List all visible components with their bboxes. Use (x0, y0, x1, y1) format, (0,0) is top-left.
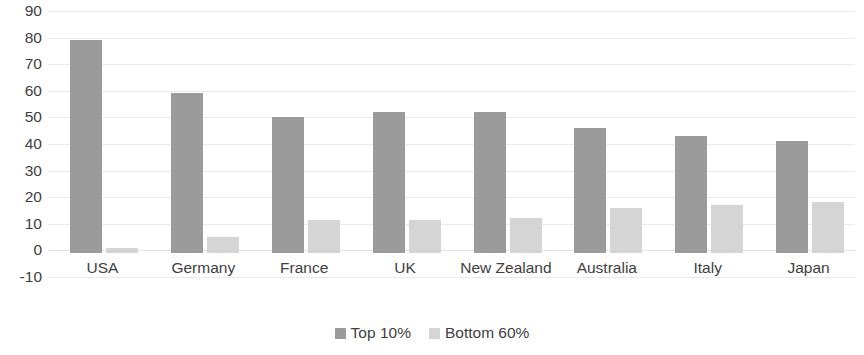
x-tick-label: USA (48, 258, 149, 277)
bar (711, 205, 743, 253)
legend-label: Top 10% (351, 325, 411, 341)
x-tick-label: Japan (754, 258, 855, 277)
bar-group (149, 11, 250, 277)
y-tick-label: 40 (2, 136, 42, 152)
bar (373, 112, 405, 253)
bar (776, 141, 808, 253)
bar (207, 237, 239, 253)
legend-entry[interactable]: Bottom 60% (429, 325, 529, 341)
x-tick-label: Italy (653, 258, 754, 277)
bar-groups (48, 11, 855, 277)
y-tick-label: 30 (2, 163, 42, 179)
x-tick-label: France (250, 258, 351, 277)
bar-group (552, 11, 653, 277)
bar (171, 93, 203, 253)
x-tick-label: New Zealand (452, 258, 553, 277)
bar-group (653, 11, 754, 277)
gridline (48, 277, 855, 278)
y-tick-label: -10 (2, 269, 42, 285)
legend-swatch-icon (429, 328, 440, 339)
bar-group (48, 11, 149, 277)
legend-swatch-icon (335, 328, 346, 339)
bar-chart: 9080706050403020100-10 USAGermanyFranceU… (0, 0, 864, 355)
x-tick-label: Australia (552, 258, 653, 277)
y-tick-label: 50 (2, 109, 42, 125)
bar (812, 202, 844, 253)
bar-group (754, 11, 855, 277)
bar (409, 220, 441, 253)
bar (675, 136, 707, 253)
bar (610, 208, 642, 253)
bar (106, 248, 138, 253)
bar-group (250, 11, 351, 277)
bar-group (351, 11, 452, 277)
bar-group (452, 11, 553, 277)
bar (510, 218, 542, 253)
y-tick-label: 10 (2, 216, 42, 232)
y-tick-label: 20 (2, 189, 42, 205)
x-tick-label: UK (351, 258, 452, 277)
bar (272, 117, 304, 253)
y-tick-label: 90 (2, 3, 42, 19)
y-tick-label: 0 (2, 242, 42, 258)
chart-legend: Top 10%Bottom 60% (0, 325, 864, 341)
y-tick-label: 70 (2, 56, 42, 72)
legend-label: Bottom 60% (445, 325, 529, 341)
x-axis: USAGermanyFranceUKNew ZealandAustraliaIt… (48, 258, 855, 277)
bar (574, 128, 606, 253)
legend-entry[interactable]: Top 10% (335, 325, 411, 341)
bar (70, 40, 102, 253)
x-tick-label: Germany (149, 258, 250, 277)
y-tick-label: 60 (2, 83, 42, 99)
y-axis: 9080706050403020100-10 (0, 11, 42, 277)
bar (308, 220, 340, 253)
y-tick-label: 80 (2, 30, 42, 46)
bar (474, 112, 506, 253)
